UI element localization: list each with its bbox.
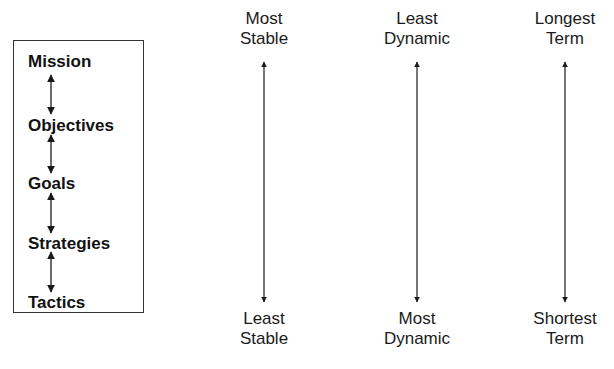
- label-line: Most: [204, 9, 324, 29]
- level-mission: Mission: [28, 53, 91, 71]
- label-line: Dynamic: [357, 329, 477, 349]
- label-line: Term: [505, 29, 614, 49]
- label-line: Stable: [204, 29, 324, 49]
- dynamism-top-label: Least Dynamic: [357, 9, 477, 49]
- label-line: Stable: [204, 329, 324, 349]
- label-line: Dynamic: [357, 29, 477, 49]
- level-strategies: Strategies: [28, 235, 110, 253]
- level-objectives: Objectives: [28, 117, 114, 135]
- label-line: Most: [357, 309, 477, 329]
- stability-bottom-label: Least Stable: [204, 309, 324, 349]
- label-line: Least: [204, 309, 324, 329]
- label-line: Longest: [505, 9, 614, 29]
- stability-top-label: Most Stable: [204, 9, 324, 49]
- label-line: Shortest: [505, 309, 614, 329]
- level-tactics: Tactics: [28, 294, 85, 312]
- label-line: Least: [357, 9, 477, 29]
- label-line: Term: [505, 329, 614, 349]
- dynamism-bottom-label: Most Dynamic: [357, 309, 477, 349]
- term-bottom-label: Shortest Term: [505, 309, 614, 349]
- level-goals: Goals: [28, 175, 75, 193]
- term-top-label: Longest Term: [505, 9, 614, 49]
